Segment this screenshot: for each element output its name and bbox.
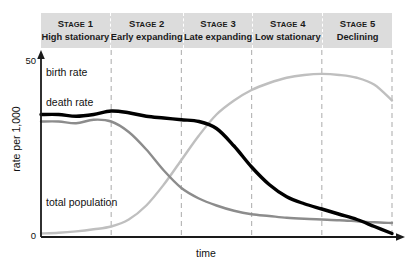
y-tick-label-bottom: 0 bbox=[14, 230, 36, 241]
series-label-total-population: total population bbox=[46, 196, 117, 208]
axes bbox=[37, 50, 405, 241]
series-curves bbox=[41, 74, 392, 234]
y-axis-arrowhead bbox=[37, 50, 45, 59]
plot-area bbox=[0, 0, 412, 269]
y-axis-label: rate per 1,000 bbox=[10, 99, 22, 179]
series-curve-total-population bbox=[41, 74, 392, 234]
x-axis-arrowhead bbox=[396, 233, 405, 241]
x-axis-label: time bbox=[0, 247, 412, 259]
series-curve-birth-rate bbox=[41, 111, 392, 234]
y-tick-label-top: 50 bbox=[14, 55, 36, 66]
stage-divider-lines bbox=[111, 50, 392, 237]
series-label-death-rate: death rate bbox=[46, 96, 93, 108]
series-label-birth-rate: birth rate bbox=[46, 66, 87, 78]
demographic-transition-chart: STAGE 1 High stationary STAGE 2 Early ex… bbox=[0, 0, 412, 269]
